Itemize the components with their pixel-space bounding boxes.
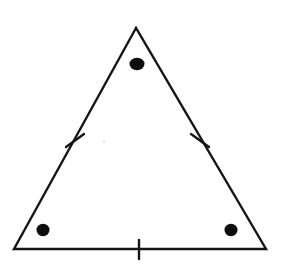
triangle-diagram bbox=[0, 0, 284, 274]
apex-vertex-dot bbox=[130, 58, 145, 70]
bottom-left-vertex-dot bbox=[37, 224, 50, 236]
figure-canvas bbox=[0, 0, 284, 274]
paper-speck bbox=[103, 141, 105, 143]
bottom-right-vertex-dot bbox=[225, 224, 238, 236]
